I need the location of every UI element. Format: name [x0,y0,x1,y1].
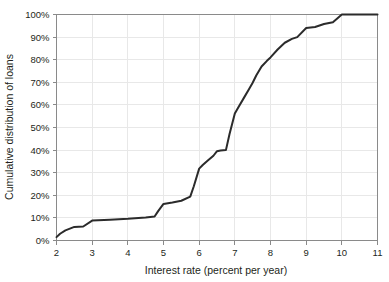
y-tick-label: 60% [30,99,50,110]
y-tick-label: 90% [30,32,50,43]
y-tick-label: 50% [30,122,50,133]
chart-figure: 234567891011 0%10%20%30%40%50%60%70%80%9… [0,0,389,282]
x-tick-label: 6 [197,247,202,258]
y-tick-label: 80% [30,54,50,65]
y-tick-label: 70% [30,77,50,88]
y-tick-label: 40% [30,145,50,156]
x-tick-label: 9 [304,247,309,258]
x-tick-label: 10 [337,247,348,258]
y-tick-label: 30% [30,167,50,178]
x-tick-label: 8 [268,247,273,258]
y-axis-title: Cumulative distribution of loans [3,54,15,200]
chart-background [0,0,389,282]
x-tick-label: 3 [90,247,95,258]
x-tick-label: 5 [161,247,166,258]
y-tick-label: 100% [25,9,50,20]
x-tick-label: 4 [125,247,130,258]
x-tick-label: 7 [232,247,237,258]
y-tick-label: 20% [30,190,50,201]
cumulative-distribution-line-chart: 234567891011 0%10%20%30%40%50%60%70%80%9… [0,0,389,282]
x-tick-label: 2 [54,247,59,258]
y-tick-label: 10% [30,212,50,223]
y-tick-label: 0% [36,235,50,246]
x-tick-label: 11 [373,247,383,258]
x-axis-title: Interest rate (percent per year) [145,264,287,276]
